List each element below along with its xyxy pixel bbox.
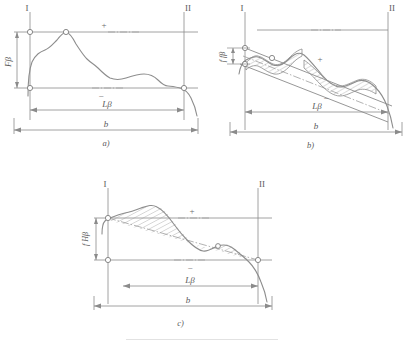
deviation-arrow-top	[231, 48, 235, 53]
panel-c-caption: c)	[78, 318, 283, 328]
panel-b-caption: b)	[216, 140, 405, 150]
marker-label-I: I	[241, 3, 244, 13]
marker-lower-left	[105, 257, 110, 262]
marker-label-I: I	[26, 3, 29, 13]
marker-label-II: II	[389, 3, 395, 13]
deviation-arrow-top	[94, 218, 98, 224]
deviation-arrow-bottom	[15, 82, 19, 88]
span-label: Lβ	[311, 101, 322, 111]
marker-trace-contact	[269, 55, 274, 60]
marker-upper-peak	[63, 29, 68, 34]
marker-label-I: I	[104, 179, 107, 189]
marker-lower-left	[27, 85, 32, 90]
footer-rule	[126, 339, 278, 340]
span-arrow-right	[177, 108, 184, 113]
face-width-arrow-left	[14, 128, 21, 133]
panel-b: f fβ Lβ b + − I II b)	[216, 0, 405, 160]
marker-upper-left	[27, 29, 32, 34]
face-width-arrow-left	[230, 130, 237, 135]
marker-label-II: II	[185, 3, 191, 13]
hatched-area-upper	[246, 49, 302, 74]
deviation-label: f fβ	[218, 52, 227, 62]
span-arrow-left	[123, 284, 130, 289]
marker-lower-right	[181, 85, 186, 90]
minus-sign: −	[98, 91, 103, 101]
span-arrow-right	[251, 284, 258, 289]
face-width-arrow-right	[265, 304, 272, 309]
hatched-area	[108, 205, 250, 260]
plus-sign: +	[317, 54, 322, 64]
marker-label-II: II	[259, 179, 265, 189]
panel-a: Fβ Lβ b + − I II a)	[0, 0, 212, 160]
face-width-label: b	[104, 119, 109, 129]
marker-trace-contact	[216, 244, 221, 249]
helix-trace	[28, 32, 197, 116]
marker-upper-left	[105, 215, 110, 220]
deviation-arrow-bottom	[231, 59, 235, 64]
face-width-arrow-left	[94, 304, 101, 309]
hatched-area-lower	[304, 60, 376, 96]
plus-sign: +	[189, 206, 194, 216]
span-label: Lβ	[184, 275, 195, 285]
figure-root: Fβ Lβ b + − I II a)	[0, 0, 405, 344]
deviation-arrow-top	[15, 32, 19, 38]
span-arrow-left	[30, 108, 37, 113]
deviation-arrow-bottom	[94, 254, 98, 260]
panel-c: f Hβ Lβ b + − I II c)	[78, 176, 283, 344]
plus-sign: +	[101, 20, 106, 30]
minus-sign: −	[187, 263, 192, 273]
face-width-arrow-right	[191, 128, 198, 133]
deviation-label: Fβ	[3, 56, 13, 67]
panel-a-caption: a)	[0, 138, 212, 148]
minus-sign: −	[323, 93, 328, 103]
panel-a-drawing: Fβ Lβ b + − I II	[0, 0, 212, 160]
span-arrow-right	[381, 110, 388, 115]
span-arrow-left	[245, 110, 252, 115]
deviation-label: f Hβ	[81, 232, 90, 246]
face-width-arrow-right	[395, 130, 402, 135]
face-width-label: b	[186, 295, 191, 305]
marker-lower-right	[255, 257, 260, 262]
panel-b-drawing: f fβ Lβ b + − I II	[216, 0, 405, 160]
face-width-label: b	[314, 121, 319, 131]
